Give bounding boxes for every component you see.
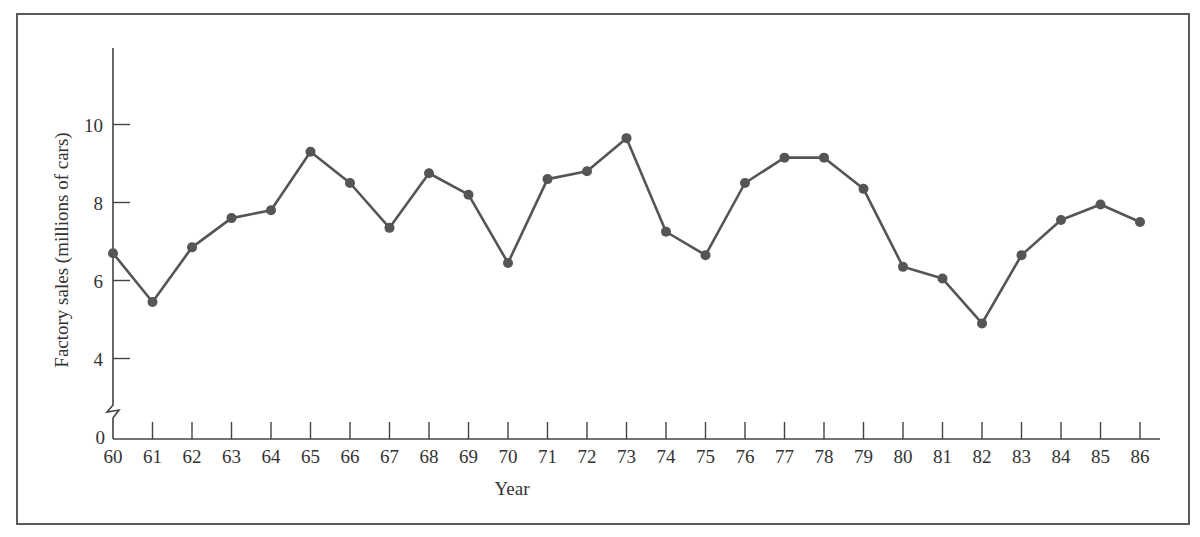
x-tick-label: 67 bbox=[380, 446, 399, 467]
x-tick-label: 63 bbox=[222, 446, 241, 467]
x-tick-label: 73 bbox=[617, 446, 636, 467]
x-tick-label: 75 bbox=[696, 446, 715, 467]
data-point bbox=[108, 248, 118, 258]
x-tick-label: 61 bbox=[143, 446, 162, 467]
x-tick-label: 64 bbox=[262, 446, 282, 467]
x-tick-label: 85 bbox=[1091, 446, 1110, 467]
data-point bbox=[819, 153, 829, 163]
x-tick-label: 72 bbox=[578, 446, 597, 467]
y-tick-label: 6 bbox=[94, 271, 104, 292]
x-tick-label: 66 bbox=[341, 446, 360, 467]
y-tick-label: 0 bbox=[96, 427, 106, 448]
x-tick-label: 60 bbox=[104, 446, 123, 467]
data-point bbox=[780, 153, 790, 163]
data-point bbox=[227, 213, 237, 223]
x-tick-label: 83 bbox=[1012, 446, 1031, 467]
x-axis-ticks: 6061626364656667686970717273747576777879… bbox=[104, 422, 1150, 467]
data-point bbox=[148, 297, 158, 307]
x-tick-label: 84 bbox=[1052, 446, 1072, 467]
x-tick-label: 86 bbox=[1131, 446, 1150, 467]
data-point bbox=[938, 274, 948, 284]
data-point bbox=[701, 250, 711, 260]
data-point bbox=[385, 223, 395, 233]
data-point bbox=[859, 184, 869, 194]
line-chart: 6061626364656667686970717273747576777879… bbox=[0, 0, 1200, 537]
data-point bbox=[464, 190, 474, 200]
y-axis-line bbox=[107, 48, 119, 439]
x-tick-label: 68 bbox=[420, 446, 439, 467]
x-tick-label: 70 bbox=[499, 446, 518, 467]
y-axis-ticks: 046810 bbox=[84, 115, 130, 449]
data-point bbox=[1056, 215, 1066, 225]
data-point bbox=[306, 147, 316, 157]
x-tick-label: 78 bbox=[815, 446, 834, 467]
data-point bbox=[582, 166, 592, 176]
data-points bbox=[108, 133, 1145, 328]
y-axis-title: Factory sales (millions of cars) bbox=[51, 132, 73, 367]
x-tick-label: 76 bbox=[736, 446, 755, 467]
data-point bbox=[424, 168, 434, 178]
y-tick-label: 8 bbox=[94, 193, 104, 214]
data-point bbox=[503, 258, 513, 268]
data-point bbox=[266, 205, 276, 215]
series-line bbox=[113, 138, 1140, 323]
data-point bbox=[740, 178, 750, 188]
axes bbox=[107, 48, 1160, 439]
x-tick-label: 62 bbox=[183, 446, 202, 467]
x-tick-label: 80 bbox=[894, 446, 913, 467]
data-point bbox=[1017, 250, 1027, 260]
x-tick-label: 69 bbox=[459, 446, 478, 467]
data-point bbox=[543, 174, 553, 184]
data-point bbox=[622, 133, 632, 143]
data-point bbox=[187, 242, 197, 252]
x-tick-label: 65 bbox=[301, 446, 320, 467]
x-tick-label: 74 bbox=[657, 446, 677, 467]
data-point bbox=[1096, 199, 1106, 209]
data-point bbox=[345, 178, 355, 188]
y-tick-label: 10 bbox=[84, 115, 103, 136]
x-tick-label: 82 bbox=[973, 446, 992, 467]
data-point bbox=[1135, 217, 1145, 227]
x-tick-label: 71 bbox=[538, 446, 557, 467]
x-tick-label: 79 bbox=[854, 446, 873, 467]
data-point bbox=[661, 227, 671, 237]
x-tick-label: 77 bbox=[775, 446, 794, 467]
x-axis-title: Year bbox=[494, 478, 530, 499]
x-tick-label: 81 bbox=[933, 446, 952, 467]
data-point bbox=[977, 318, 987, 328]
y-tick-label: 4 bbox=[94, 349, 104, 370]
data-point bbox=[898, 262, 908, 272]
